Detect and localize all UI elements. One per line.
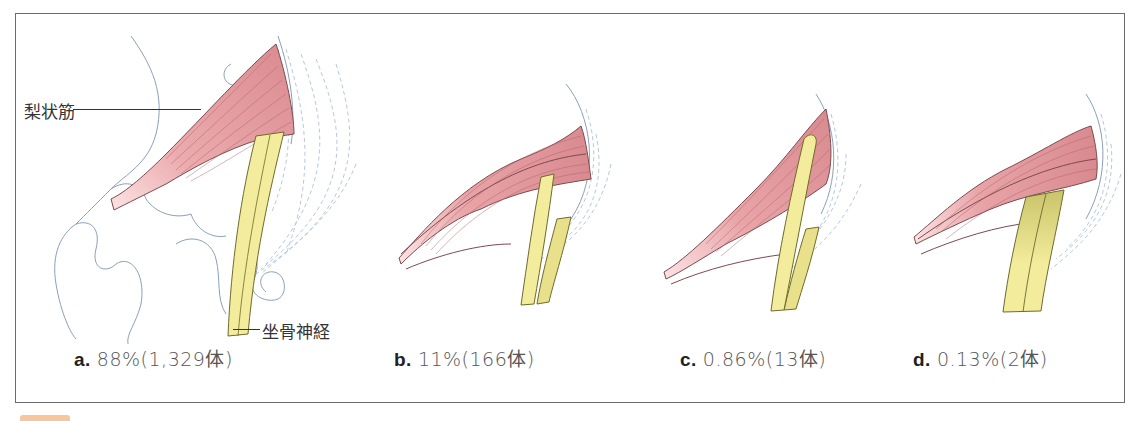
figure-frame: 梨状筋 坐骨神経 a.88%(1,329体): [15, 13, 1125, 403]
panel-b: b.11%(166体): [381, 14, 641, 404]
caption-d: d.0.13%(2体): [913, 344, 1048, 371]
caption-value: 0.86%(13体): [703, 348, 826, 370]
panel-d: d.0.13%(2体): [896, 14, 1124, 404]
panel-c: c.0.86%(13体): [656, 14, 896, 404]
nerve-label: 坐骨神経: [262, 318, 330, 343]
caption-a: a.88%(1,329体): [74, 344, 233, 371]
panel-b-illustration: [381, 14, 641, 344]
panel-a: 梨状筋 坐骨神経 a.88%(1,329体): [16, 14, 376, 404]
figure-tab-marker: [20, 415, 70, 421]
nerve-leader-line: [233, 329, 260, 330]
caption-value: 88%(1,329体): [97, 348, 233, 370]
caption-letter: d.: [913, 349, 931, 370]
muscle-label: 梨状筋: [24, 98, 75, 123]
sciatic-nerve: [228, 132, 284, 336]
caption-letter: a.: [74, 349, 91, 370]
caption-value: 0.13%(2体): [937, 348, 1048, 370]
panel-d-illustration: [896, 14, 1124, 344]
caption-letter: b.: [394, 349, 412, 370]
caption-value: 11%(166体): [418, 348, 535, 370]
caption-b: b.11%(166体): [394, 344, 535, 371]
caption-c: c.0.86%(13体): [680, 344, 826, 371]
muscle-leader-line: [73, 109, 201, 110]
panel-a-illustration: [16, 14, 376, 344]
panel-c-illustration: [656, 14, 896, 344]
caption-letter: c.: [680, 349, 697, 370]
